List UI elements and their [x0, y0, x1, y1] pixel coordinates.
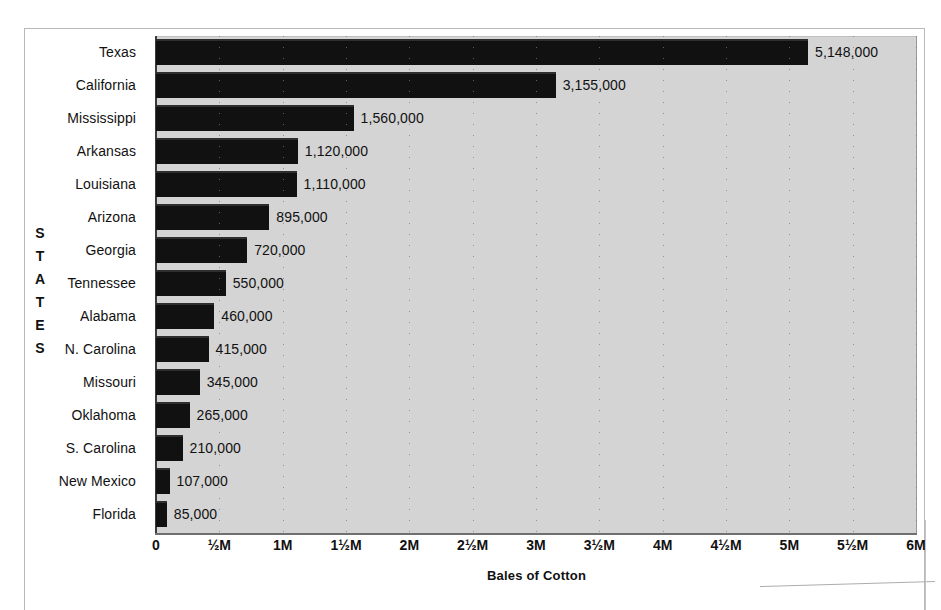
bar-row: New Mexico107,000 — [0, 465, 941, 498]
bar-highlight — [156, 204, 269, 206]
x-tick-label: 3½M — [584, 537, 615, 553]
bar-value-label: 1,560,000 — [361, 102, 424, 135]
bar-value-label: 1,110,000 — [304, 168, 366, 201]
bar-value-label: 1,120,000 — [305, 135, 368, 168]
bar-highlight — [156, 369, 200, 371]
state-label: Oklahoma — [0, 399, 146, 432]
bar-highlight — [156, 171, 297, 173]
bar-row: Oklahoma265,000 — [0, 399, 941, 432]
gridline — [663, 36, 664, 533]
bar-row: Arizona895,000 — [0, 201, 941, 234]
bar — [156, 72, 556, 98]
gridline — [853, 36, 854, 533]
bar-row: N. Carolina415,000 — [0, 333, 941, 366]
x-tick-label: 5½M — [837, 537, 868, 553]
bar-value-label: 895,000 — [276, 201, 327, 234]
gridline — [916, 36, 917, 533]
state-label: New Mexico — [0, 465, 146, 498]
state-label: Missouri — [0, 366, 146, 399]
x-tick-label: 4½M — [710, 537, 741, 553]
x-tick-label: 3M — [526, 537, 545, 553]
bar-value-label: 3,155,000 — [563, 69, 626, 102]
bar — [156, 237, 247, 263]
gridline — [346, 36, 347, 533]
x-tick-label: 5M — [780, 537, 799, 553]
x-tick-label: 2½M — [457, 537, 488, 553]
bar-highlight — [156, 336, 209, 338]
bar-value-label: 265,000 — [197, 399, 248, 432]
bar-row: Louisiana1,110,000 — [0, 168, 941, 201]
bar-highlight — [156, 270, 226, 272]
bar-value-label: 550,000 — [233, 267, 284, 300]
state-label: Louisiana — [0, 168, 146, 201]
state-label: Arizona — [0, 201, 146, 234]
bar-highlight — [156, 138, 298, 140]
bar-highlight — [156, 468, 170, 470]
bar-row: Tennessee550,000 — [0, 267, 941, 300]
bar — [156, 270, 226, 296]
bar — [156, 501, 167, 527]
bar — [156, 105, 354, 131]
gridline — [219, 36, 220, 533]
gridline — [599, 36, 600, 533]
bar — [156, 204, 269, 230]
bar-highlight — [156, 402, 190, 404]
gridline — [726, 36, 727, 533]
state-label: California — [0, 69, 146, 102]
bar — [156, 402, 190, 428]
bar-highlight — [156, 435, 183, 437]
bar — [156, 39, 808, 65]
bar-highlight — [156, 105, 354, 107]
bar-row: Arkansas1,120,000 — [0, 135, 941, 168]
bar — [156, 171, 297, 197]
bar-value-label: 345,000 — [207, 366, 258, 399]
state-label: Georgia — [0, 234, 146, 267]
bar — [156, 435, 183, 461]
x-tick-label: 1M — [273, 537, 292, 553]
state-label: Texas — [0, 36, 146, 69]
bar-row: Missouri345,000 — [0, 366, 941, 399]
gridline — [473, 36, 474, 533]
bar-row: Texas5,148,000 — [0, 36, 941, 69]
state-label: Tennessee — [0, 267, 146, 300]
gridline — [536, 36, 537, 533]
bar — [156, 138, 298, 164]
bar-highlight — [156, 39, 808, 41]
bar-value-label: 415,000 — [216, 333, 267, 366]
bar — [156, 336, 209, 362]
x-tick-label: 0 — [152, 537, 160, 553]
state-label: Florida — [0, 498, 146, 531]
bar-value-label: 5,148,000 — [815, 36, 878, 69]
x-tick-label: 6M — [906, 537, 925, 553]
state-label: N. Carolina — [0, 333, 146, 366]
x-axis-title: Bales of Cotton — [156, 568, 917, 583]
x-axis-line — [155, 533, 917, 535]
state-label: S. Carolina — [0, 432, 146, 465]
bar-highlight — [156, 501, 167, 503]
state-label: Arkansas — [0, 135, 146, 168]
bar-row: S. Carolina210,000 — [0, 432, 941, 465]
bar-row: California3,155,000 — [0, 69, 941, 102]
bar-value-label: 85,000 — [174, 498, 217, 531]
gridline — [789, 36, 790, 533]
bar — [156, 468, 170, 494]
gridline — [283, 36, 284, 533]
state-label: Alabama — [0, 300, 146, 333]
scan-artifact-vertical — [925, 520, 926, 610]
bar-row: Alabama460,000 — [0, 300, 941, 333]
x-tick-label: 1½M — [330, 537, 361, 553]
state-label: Mississippi — [0, 102, 146, 135]
x-tick-label: ½M — [208, 537, 231, 553]
bar-row: Mississippi1,560,000 — [0, 102, 941, 135]
bar-highlight — [156, 237, 247, 239]
bar — [156, 369, 200, 395]
bar-row: Florida85,000 — [0, 498, 941, 531]
cotton-bales-bar-chart: STATES Texas5,148,000California3,155,000… — [0, 0, 941, 610]
bar-value-label: 720,000 — [254, 234, 305, 267]
gridline — [409, 36, 410, 533]
bar-highlight — [156, 72, 556, 74]
bar-value-label: 460,000 — [221, 300, 272, 333]
bar-highlight — [156, 303, 214, 305]
bar-row: Georgia720,000 — [0, 234, 941, 267]
bar — [156, 303, 214, 329]
